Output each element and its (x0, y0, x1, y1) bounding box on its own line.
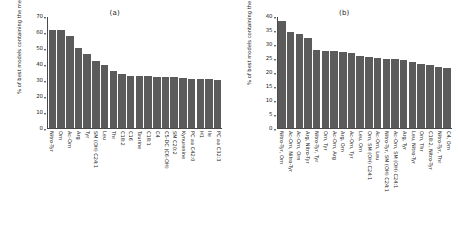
bar (278, 21, 286, 128)
bar (153, 77, 161, 128)
x-tick: Orn, Tyr (320, 130, 329, 230)
bar (162, 77, 170, 128)
x-tick: Ac-Orn (65, 130, 74, 230)
x-tick-label: Arg, Tyr (401, 131, 406, 150)
x-tick: C18:2 (117, 130, 126, 230)
bar (409, 62, 417, 128)
panel-a: (a) % of best models containing the meta… (0, 0, 230, 237)
x-tick-label: Tyr (84, 131, 89, 138)
figure-container: (a) % of best models containing the meta… (0, 0, 459, 237)
x-tick-label: PC aa C32:3 (216, 131, 221, 162)
y-tick-label: 25 (266, 56, 273, 61)
x-tick: Arg, Orn (338, 130, 347, 230)
bar (374, 58, 382, 128)
bar (66, 36, 74, 128)
x-tick-label: Ac-Orn, Tyr (349, 131, 354, 159)
x-tick: SM (OH) C24:1 (91, 130, 100, 230)
bar (49, 30, 57, 128)
x-tick: Ac-Orn, Arg (329, 130, 338, 230)
panel-a-y-axis-label: % of best models containing the metaboli… (16, 0, 22, 97)
x-tick: Nitro-Tyr, SM (OH) C24:1 (382, 130, 391, 230)
panel-b-y-axis-label: % of best models containing the pair (246, 0, 252, 97)
x-tick-label: C4, Orn (445, 131, 450, 150)
x-tick: Nitro-Tyr, Tyr (312, 130, 321, 230)
x-tick-label: Arg, Orn (340, 131, 345, 152)
x-tick: Kynurenine (179, 130, 188, 230)
bar (287, 32, 295, 128)
x-tick-label: C16 (128, 131, 133, 141)
x-tick-label: Arg (75, 131, 80, 140)
bar (92, 61, 100, 128)
y-tick-label: 10 (266, 98, 273, 103)
y-tick-label: 35 (266, 28, 273, 33)
bar (296, 34, 304, 128)
x-tick-label: Kynurenine (181, 131, 186, 159)
panel-b-plot-area: 0510152025303540 (260, 17, 452, 129)
panel-b-y-ticks: 0510152025303540 (260, 17, 276, 129)
bar (127, 76, 135, 128)
x-tick: Arg, Tyr (399, 130, 408, 230)
x-tick: C4, Orn (443, 130, 452, 230)
x-tick-label: Leu, Orn (357, 131, 362, 152)
bar (383, 59, 391, 128)
y-tick-label: 0 (40, 126, 43, 131)
y-tick-label: 15 (266, 84, 273, 89)
x-tick-label: SM C20:2 (172, 131, 177, 155)
x-tick-label: Nitro-Tyr, SM (OH) C24:1 (384, 131, 389, 192)
bar (356, 56, 364, 128)
x-tick-label: Ac-Orn (66, 131, 71, 148)
x-tick: Ac-Orn, Orn (294, 130, 303, 230)
x-tick: PC aa C32:3 (214, 130, 223, 230)
y-tick-label: 60 (36, 30, 43, 35)
x-tick: Orn, Thr (417, 130, 426, 230)
bar (57, 30, 65, 128)
bar (179, 78, 187, 128)
x-tick: C16 (126, 130, 135, 230)
x-tick-label: H1 (198, 131, 203, 138)
bar (391, 59, 399, 128)
x-tick-label: Ile (207, 131, 212, 137)
bar (435, 67, 443, 128)
x-tick: Orn (56, 130, 65, 230)
x-tick-label: C18:1 (145, 131, 150, 146)
x-tick-label: Ac-Orn, Orn (296, 131, 301, 160)
x-tick: Leu (100, 130, 109, 230)
x-tick-label: C18:2 (119, 131, 124, 146)
x-tick-label: Orn (58, 131, 63, 140)
x-tick-label: Arg, Nitro-Tyr (305, 131, 310, 164)
x-tick: H1 (196, 130, 205, 230)
x-tick: Ac-Orn, Nitro-Tyr (285, 130, 294, 230)
x-tick: C4 (152, 130, 161, 230)
x-tick-label: Thr (110, 131, 115, 139)
bar (205, 79, 213, 128)
x-tick-label: C4 (154, 131, 159, 138)
x-tick-label: Nitro-Tyr, Thr (436, 131, 441, 163)
y-tick-label: 30 (266, 42, 273, 47)
y-tick-label: 30 (36, 78, 43, 83)
x-tick-label: Ac-Orn, Arg (331, 131, 336, 160)
y-tick-label: 5 (269, 112, 272, 117)
x-tick: C18:1 (144, 130, 153, 230)
bar (83, 54, 91, 128)
x-tick: Arg (73, 130, 82, 230)
bar (313, 50, 321, 128)
y-tick-label: 40 (266, 14, 273, 19)
bar (330, 51, 338, 128)
x-tick-label: C18:2, Nitro-Tyr (428, 131, 433, 170)
bar (110, 71, 118, 128)
x-tick-label: C5-DC (C6-OH) (163, 131, 168, 169)
x-tick-label: Ac-Orn, Nitro-Tyr (287, 131, 292, 172)
bar (304, 38, 312, 128)
bar (118, 74, 126, 128)
x-tick-label: Orn, SM (OH) C24:1 (366, 131, 371, 180)
x-tick-label: Taurine (137, 131, 142, 149)
panel-a-title: (a) (0, 9, 230, 17)
y-tick-label: 20 (266, 70, 273, 75)
x-tick: Nitro-Tyr, Thr (435, 130, 444, 230)
bar (170, 77, 178, 128)
bar (339, 52, 347, 128)
x-tick: Taurine (135, 130, 144, 230)
x-tick: Ac-Orn, Leu (373, 130, 382, 230)
panel-a-bars (47, 17, 222, 129)
bar (426, 65, 434, 128)
